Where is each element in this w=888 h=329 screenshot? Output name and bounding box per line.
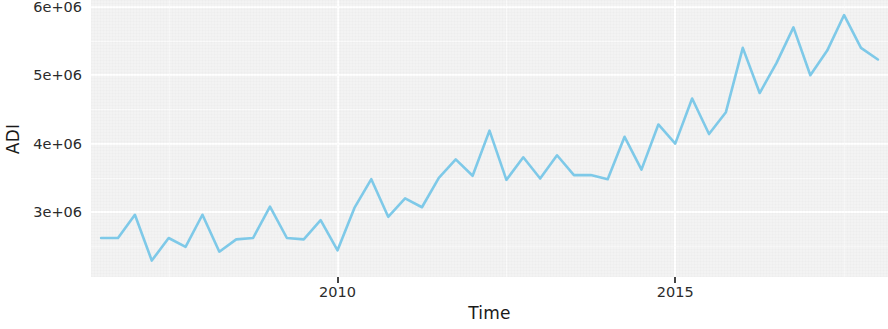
plot-panel: [91, 0, 888, 277]
series-line-adi: [91, 0, 888, 277]
y-tick-label: 4e+06: [24, 136, 82, 152]
y-tick-label: 6e+06: [24, 0, 82, 15]
x-axis-title: Time: [91, 303, 888, 323]
y-tick-label: 5e+06: [24, 67, 82, 83]
y-axis-title-label: ADI: [3, 123, 23, 153]
y-axis-ticks: 3e+064e+065e+066e+06: [24, 0, 82, 277]
y-axis-title: ADI: [0, 0, 26, 277]
line-chart: ADI 3e+064e+065e+066e+06 20102015 Time: [0, 0, 888, 329]
x-tick-label: 2010: [319, 284, 356, 300]
x-tick-mark: [674, 277, 676, 283]
x-tick-mark: [337, 277, 339, 283]
y-tick-label: 3e+06: [24, 204, 82, 220]
x-axis-title-label: Time: [468, 303, 510, 323]
x-tick-label: 2015: [657, 284, 694, 300]
